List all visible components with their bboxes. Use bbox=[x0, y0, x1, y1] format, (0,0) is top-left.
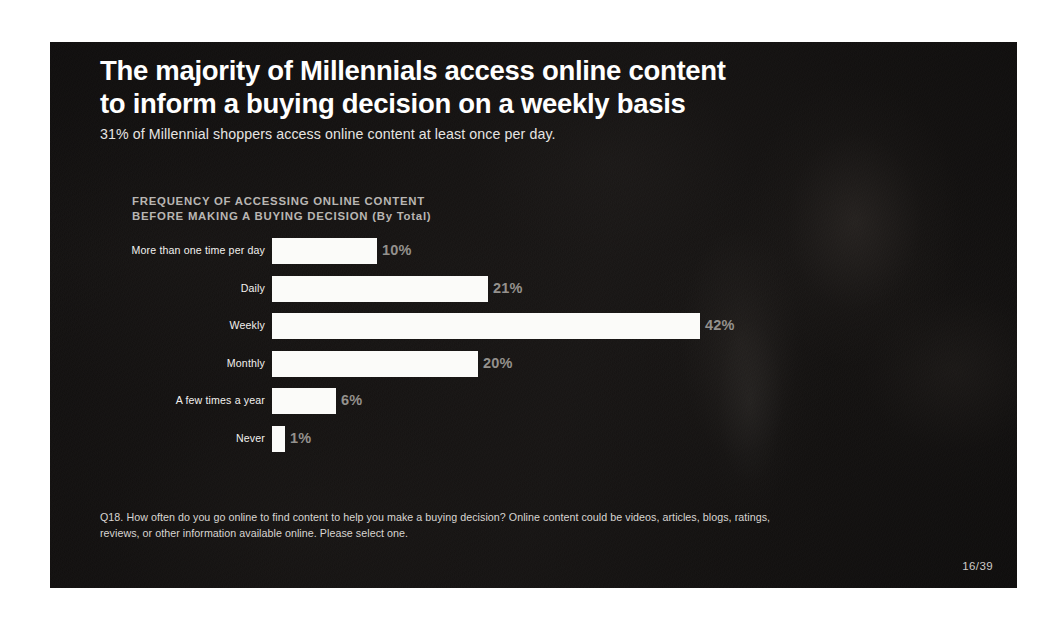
bar-track: 6% bbox=[272, 388, 1017, 414]
bar-fill bbox=[272, 351, 478, 377]
bar-row: Weekly42% bbox=[50, 313, 1017, 351]
bar-list: More than one time per day10%Daily21%Wee… bbox=[50, 238, 1017, 463]
chart-title-line-1: FREQUENCY OF ACCESSING ONLINE CONTENT bbox=[132, 194, 562, 209]
chart-title: FREQUENCY OF ACCESSING ONLINE CONTENT BE… bbox=[132, 194, 562, 224]
bar-category-label: A few times a year bbox=[50, 394, 265, 406]
bar-category-label: Weekly bbox=[50, 319, 265, 331]
bar-value-label: 21% bbox=[493, 280, 523, 296]
chart-title-line-2: BEFORE MAKING A BUYING DECISION (By Tota… bbox=[132, 209, 562, 224]
bar-fill bbox=[272, 238, 377, 264]
bar-category-label: More than one time per day bbox=[50, 244, 265, 256]
bar-chart: FREQUENCY OF ACCESSING ONLINE CONTENT BE… bbox=[50, 42, 1017, 588]
page-number: 16/39 bbox=[962, 560, 993, 572]
bar-row: Daily21% bbox=[50, 276, 1017, 314]
bar-track: 42% bbox=[272, 313, 1017, 339]
bar-track: 21% bbox=[272, 276, 1017, 302]
bar-row: A few times a year6% bbox=[50, 388, 1017, 426]
bar-value-label: 1% bbox=[290, 430, 311, 446]
bar-fill bbox=[272, 388, 336, 414]
bar-value-label: 20% bbox=[483, 355, 513, 371]
bar-category-label: Daily bbox=[50, 282, 265, 294]
bar-value-label: 6% bbox=[341, 392, 362, 408]
bar-value-label: 10% bbox=[382, 242, 412, 258]
slide: The majority of Millennials access onlin… bbox=[50, 42, 1017, 588]
slide-content: The majority of Millennials access onlin… bbox=[50, 42, 1017, 588]
bar-category-label: Never bbox=[50, 432, 265, 444]
bar-category-label: Monthly bbox=[50, 357, 265, 369]
bar-row: Never1% bbox=[50, 426, 1017, 464]
bar-fill bbox=[272, 313, 700, 339]
footnote-line-2: reviews, or other information available … bbox=[100, 526, 980, 542]
bar-fill bbox=[272, 426, 285, 452]
bar-track: 20% bbox=[272, 351, 1017, 377]
bar-track: 10% bbox=[272, 238, 1017, 264]
bar-fill bbox=[272, 276, 488, 302]
bar-row: Monthly20% bbox=[50, 351, 1017, 389]
footnote-line-1: Q18. How often do you go online to find … bbox=[100, 510, 980, 526]
bar-value-label: 42% bbox=[705, 317, 735, 333]
bar-track: 1% bbox=[272, 426, 1017, 452]
footnote: Q18. How often do you go online to find … bbox=[100, 510, 980, 541]
bar-row: More than one time per day10% bbox=[50, 238, 1017, 276]
